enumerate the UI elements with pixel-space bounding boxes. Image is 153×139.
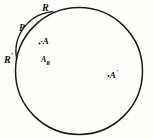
label-A-text: A — [43, 36, 49, 46]
label-P-text: P — [19, 23, 25, 33]
label-A-sub-R: AR — [41, 56, 50, 66]
figure-canvas — [0, 0, 153, 139]
label-A-sub-R-subscript: R — [46, 60, 50, 66]
label-R-text: R — [42, 2, 49, 13]
label-R-prime: R' — [4, 53, 13, 65]
label-R: R — [42, 1, 49, 13]
label-R-prime-mark: ' — [11, 52, 13, 61]
label-A: ·A — [40, 37, 49, 46]
label-P: P — [19, 24, 25, 34]
label-A-prime: ·A' — [107, 69, 118, 80]
geometry-figure: R R' P ·A AR ·A' — [0, 0, 153, 139]
outer-circle — [16, 8, 143, 135]
label-R-prime-text: R — [4, 54, 11, 65]
label-A-prime-mark: ' — [116, 68, 118, 76]
